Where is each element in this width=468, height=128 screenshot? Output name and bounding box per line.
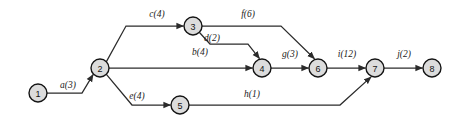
node-label-4: 4 (259, 64, 264, 74)
edge-label-i: i(12) (338, 49, 356, 60)
node-label-2: 2 (97, 64, 102, 74)
edge-label-d: d(2) (204, 33, 220, 44)
edge-label-j: j(2) (395, 49, 411, 60)
node-2: 2 (91, 59, 109, 77)
edge-label-g: g(3) (282, 49, 298, 60)
edge-label-h: h(1) (244, 89, 260, 100)
edge-label-c: c(4) (149, 9, 164, 20)
node-label-8: 8 (429, 64, 434, 74)
edge-c (106, 26, 183, 62)
network-diagram: a(3)c(4)b(4)e(4)d(2)f(6)g(3)h(1)i(12)j(2… (0, 0, 468, 128)
node-label-3: 3 (190, 22, 195, 32)
node-3: 3 (184, 17, 202, 35)
node-label-1: 1 (35, 89, 40, 99)
edge-label-e: e(4) (129, 91, 144, 102)
node-8: 8 (423, 59, 441, 77)
node-6: 6 (309, 59, 327, 77)
edge-h (189, 77, 371, 105)
edge-label-f: f(6) (241, 9, 255, 20)
node-1: 1 (29, 84, 47, 102)
edge-label-b: b(4) (192, 47, 208, 58)
edge-label-a: a(3) (60, 80, 76, 91)
node-4: 4 (253, 59, 271, 77)
network-diagram-canvas: a(3)c(4)b(4)e(4)d(2)f(6)g(3)h(1)i(12)j(2… (0, 0, 468, 128)
node-7: 7 (366, 59, 384, 77)
node-label-6: 6 (315, 64, 320, 74)
node-label-7: 7 (372, 64, 377, 74)
node-5: 5 (171, 96, 189, 114)
node-label-5: 5 (177, 101, 182, 111)
nodes-layer: 12345678 (29, 17, 441, 114)
